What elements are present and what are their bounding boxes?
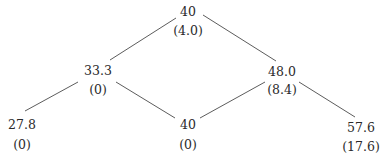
node-root-sub: (4.0): [173, 25, 203, 38]
edge-root-to-mid-right: [203, 15, 276, 61]
node-bottom-left-sub: (0): [13, 139, 31, 152]
node-bottom-mid-sub: (0): [179, 139, 197, 152]
edge-mid-right-to-bottom-mid: [200, 82, 265, 118]
edge-root-to-mid-left: [110, 18, 176, 60]
edge-mid-right-to-bottom-right: [299, 82, 355, 117]
node-mid-right-value: 48.0: [268, 66, 296, 79]
node-mid-left-sub: (0): [89, 84, 107, 97]
node-mid-right-sub: (8.4): [267, 84, 297, 97]
node-bottom-right-value: 57.6: [347, 122, 375, 135]
edge-mid-left-to-bottom-mid: [116, 82, 175, 118]
node-bottom-mid-value: 40: [180, 119, 196, 132]
node-bottom-right-sub: (17.6): [342, 141, 380, 154]
node-root-value: 40: [180, 6, 196, 19]
node-mid-left-value: 33.3: [84, 65, 112, 78]
node-bottom-left-value: 27.8: [8, 119, 36, 132]
edge-mid-left-to-bottom-left: [25, 82, 78, 111]
